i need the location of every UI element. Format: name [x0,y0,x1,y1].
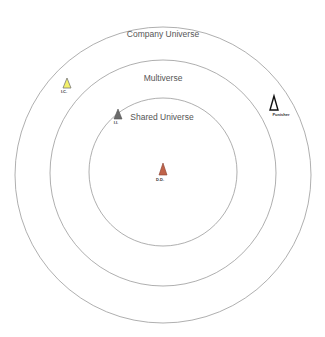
marker-punisher-icon [270,96,278,110]
marker-ii-icon [114,109,122,119]
ring-label-multiverse: Multiverse [144,73,183,83]
marker-ic-icon [63,78,71,88]
marker-dd-icon [159,163,167,175]
diagram-canvas [0,0,325,337]
marker-label-dd: D.D. [156,177,164,182]
ring-label-company-universe: Company Universe [127,29,199,39]
ring-label-shared-universe: Shared Universe [130,112,193,122]
marker-label-ic: I.C. [61,89,67,94]
marker-label-ii: I.I. [114,120,118,125]
marker-label-punisher: Punisher [272,112,289,117]
